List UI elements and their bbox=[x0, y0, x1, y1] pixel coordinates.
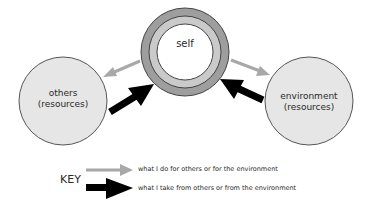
key-title: KEY bbox=[60, 173, 81, 186]
self-circle bbox=[141, 8, 229, 96]
key-take-label: what I take from others or from the envi… bbox=[138, 184, 296, 192]
environment-label: environment (resources) bbox=[269, 91, 349, 113]
key-take-arrow-icon bbox=[86, 178, 133, 199]
environment-label-line2: (resources) bbox=[269, 102, 349, 113]
take-arrow-from-environment bbox=[220, 79, 263, 100]
others-label-line2: (resources) bbox=[23, 99, 103, 110]
self-label: self bbox=[160, 38, 210, 49]
environment-label-line1: environment bbox=[269, 91, 349, 102]
give-arrow-to-others bbox=[103, 61, 140, 77]
key-give-arrow-icon bbox=[86, 164, 133, 176]
others-label-line1: others bbox=[23, 88, 103, 99]
take-arrow-from-others bbox=[110, 84, 154, 112]
others-label: others (resources) bbox=[23, 88, 103, 110]
key-give-label: what I do for others or for the environm… bbox=[138, 165, 278, 173]
give-arrow-to-environment bbox=[231, 60, 270, 76]
